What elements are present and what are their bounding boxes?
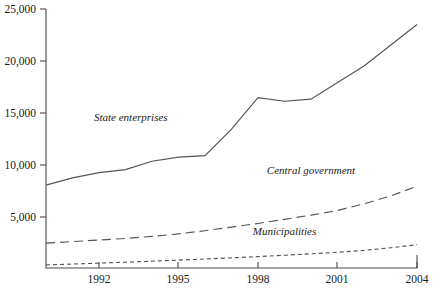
axis-frame bbox=[46, 9, 417, 268]
series-lines bbox=[46, 25, 417, 265]
x-tick-label-1995: 1995 bbox=[167, 273, 190, 285]
x-tick-label-1992: 1992 bbox=[88, 273, 111, 285]
x-tick-label-2004: 2004 bbox=[406, 273, 429, 285]
series-label-central-government: Central government bbox=[267, 164, 356, 176]
x-axis-labels: 1992 1995 1998 2001 2004 bbox=[88, 273, 429, 285]
y-axis-labels: 25,000 20,000 15,000 10,000 5,000 bbox=[4, 3, 36, 224]
series-label-state-enterprises: State enterprises bbox=[94, 111, 168, 123]
series-label-municipalities: Municipalities bbox=[252, 225, 317, 237]
y-axis-ticks bbox=[40, 9, 46, 217]
y-tick-label-15000: 15,000 bbox=[4, 107, 36, 120]
y-tick-label-20000: 20,000 bbox=[4, 55, 36, 68]
x-tick-label-1998: 1998 bbox=[247, 273, 270, 285]
series-line-state-enterprises bbox=[46, 25, 417, 186]
x-axis-ticks bbox=[99, 262, 417, 268]
y-tick-label-25000: 25,000 bbox=[4, 3, 36, 16]
series-labels: State enterprises Central government Mun… bbox=[94, 111, 356, 237]
series-line-municipalities bbox=[46, 245, 417, 265]
x-tick-label-2001: 2001 bbox=[326, 273, 349, 285]
series-line-central-government bbox=[46, 186, 417, 243]
line-chart: 25,000 20,000 15,000 10,000 5,000 1992 1… bbox=[0, 0, 441, 298]
y-tick-label-10000: 10,000 bbox=[4, 159, 36, 172]
chart-container: 25,000 20,000 15,000 10,000 5,000 1992 1… bbox=[0, 0, 441, 298]
y-tick-label-5000: 5,000 bbox=[10, 211, 36, 224]
